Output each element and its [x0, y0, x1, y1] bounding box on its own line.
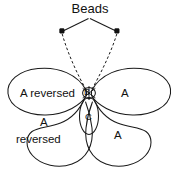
bead-leader-line-left	[63, 19, 89, 32]
label-loop-c: C	[85, 112, 92, 122]
label-beads: Beads	[0, 2, 180, 15]
bead-dot-icon-left	[60, 29, 65, 34]
bead-leader-line-right	[90, 19, 116, 32]
label-wing-upper-right: A	[121, 88, 129, 100]
label-wing-lower-left-line2: reversed	[16, 134, 61, 146]
label-knot-b: B	[84, 88, 90, 97]
dashed-strand-left	[62, 34, 86, 90]
wing-upper-right-outline	[92, 68, 171, 115]
butterfly-loop-diagram: Beads A reversed A A reversed A B C	[0, 0, 180, 175]
label-wing-upper-left: A reversed	[20, 88, 75, 100]
dashed-strand-right	[91, 34, 117, 90]
label-wing-lower-left-line1: A	[40, 117, 48, 129]
label-wing-lower-right: A	[114, 130, 122, 142]
bead-dot-icon-right	[115, 29, 120, 34]
